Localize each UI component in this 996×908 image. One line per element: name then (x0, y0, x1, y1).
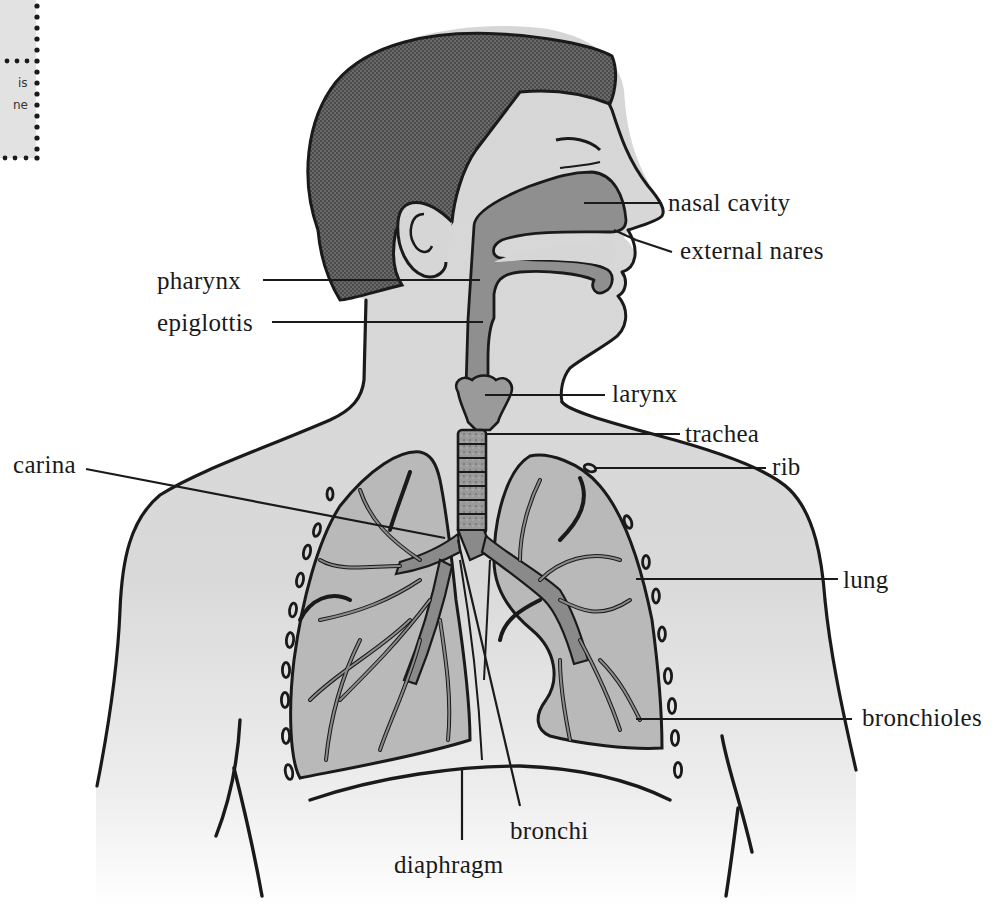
label-larynx: larynx (612, 381, 678, 406)
respiratory-diagram: is ne (0, 0, 996, 908)
label-diaphragm: diaphragm (394, 852, 504, 877)
label-bronchioles: bronchioles (862, 705, 982, 730)
label-bronchi: bronchi (510, 818, 588, 843)
label-lung: lung (843, 567, 889, 592)
label-epiglottis: epiglottis (157, 310, 253, 335)
label-nasal-cavity: nasal cavity (668, 190, 790, 215)
label-pharynx: pharynx (157, 268, 241, 293)
label-rib: rib (772, 454, 801, 479)
label-external-nares: external nares (680, 238, 824, 263)
trachea-shape (458, 430, 486, 534)
label-carina: carina (13, 452, 76, 477)
anatomy-illustration (0, 0, 996, 908)
label-trachea: trachea (685, 421, 759, 446)
